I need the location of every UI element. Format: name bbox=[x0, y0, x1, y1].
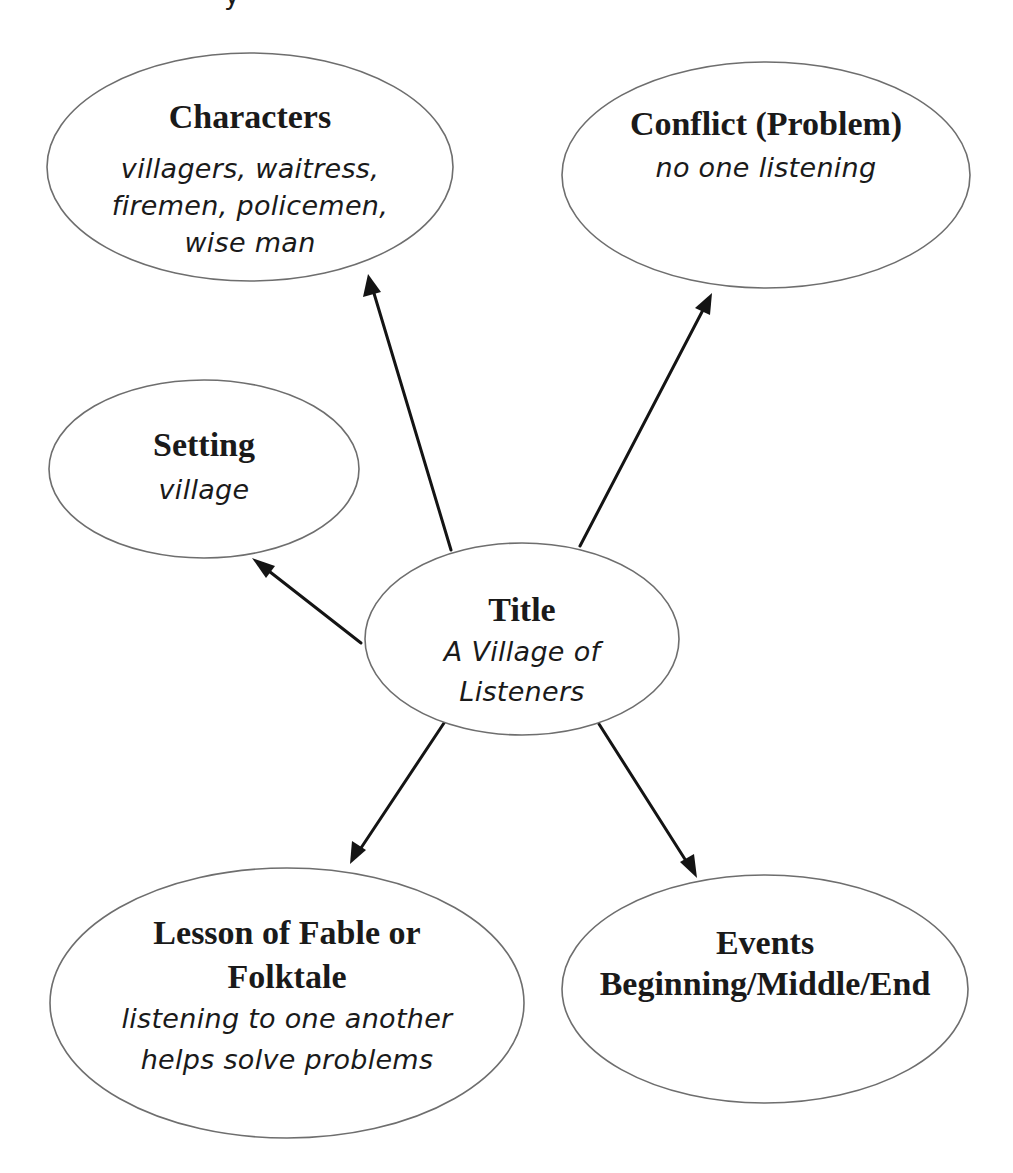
title-line-1: A Village of bbox=[442, 636, 604, 667]
title-line-2: Listeners bbox=[459, 676, 584, 707]
node-lesson: Lesson of Fable or Folktale listening to… bbox=[50, 868, 524, 1138]
lesson-line-1: listening to one another bbox=[121, 1003, 454, 1034]
setting-heading: Setting bbox=[153, 426, 255, 463]
node-characters: Characters villagers, waitress, firemen,… bbox=[47, 53, 453, 281]
events-heading-line-2: Beginning/Middle/End bbox=[600, 965, 931, 1002]
node-setting: Setting village bbox=[49, 380, 359, 558]
arrow-to-events bbox=[599, 724, 697, 878]
characters-line-3: wise man bbox=[184, 227, 315, 258]
arrow-to-conflict bbox=[580, 293, 712, 546]
node-title: Title A Village of Listeners bbox=[365, 543, 679, 735]
events-heading-line-1: Events bbox=[716, 924, 814, 961]
conflict-heading: Conflict (Problem) bbox=[630, 105, 902, 143]
story-map-diagram: y Characters villagers, waitress, fireme… bbox=[0, 0, 1013, 1173]
title-heading: Title bbox=[488, 591, 555, 628]
characters-line-1: villagers, waitress, bbox=[121, 153, 379, 184]
characters-line-2: firemen, policemen, bbox=[112, 190, 388, 221]
node-conflict: Conflict (Problem) no one listening bbox=[562, 62, 970, 288]
arrow-to-setting bbox=[252, 558, 361, 643]
lesson-heading-line-2: Folktale bbox=[228, 958, 347, 995]
node-events: Events Beginning/Middle/End bbox=[562, 875, 968, 1103]
cropped-top-text: y bbox=[224, 0, 240, 10]
arrow-to-characters bbox=[363, 274, 451, 550]
conflict-line-1: no one listening bbox=[656, 152, 877, 183]
lesson-heading-line-1: Lesson of Fable or bbox=[153, 914, 420, 951]
setting-ellipse bbox=[49, 380, 359, 558]
lesson-line-2: helps solve problems bbox=[141, 1044, 434, 1075]
setting-line-1: village bbox=[159, 474, 250, 505]
characters-heading: Characters bbox=[169, 98, 331, 135]
arrow-to-lesson bbox=[350, 723, 444, 864]
